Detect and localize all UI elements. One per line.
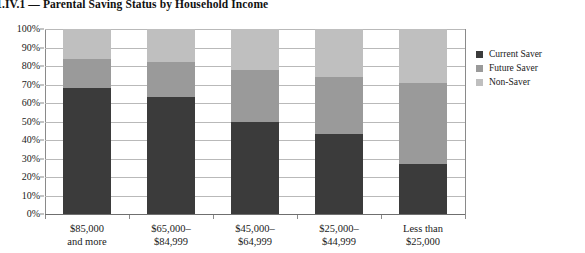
y-axis-tick-mark — [40, 47, 44, 48]
y-axis-tick-mark — [40, 140, 44, 141]
bar-stack — [63, 29, 111, 214]
y-axis-tick-label: 40% — [0, 135, 40, 145]
bar-segment-current-saver[interactable] — [399, 164, 447, 214]
y-axis-tick-mark — [40, 121, 44, 122]
plot-area — [45, 29, 465, 214]
bar-segment-future-saver[interactable] — [147, 62, 195, 97]
y-axis-tick-mark — [40, 29, 44, 30]
plot-right-edge — [465, 29, 466, 215]
x-axis-label: $25,000–$44,999 — [297, 222, 381, 248]
x-axis-label-line2: $25,000 — [381, 235, 465, 248]
y-axis-labels: 100%90%80%70%60%50%40%30%20%10%0% — [0, 29, 40, 214]
x-axis-label-line2: $64,999 — [213, 235, 297, 248]
legend-item[interactable]: Future Saver — [476, 62, 581, 74]
x-axis-label: $65,000–$84,999 — [129, 222, 213, 248]
bar-stack — [231, 29, 279, 214]
bar-group[interactable] — [315, 29, 363, 214]
bar-segment-future-saver[interactable] — [315, 77, 363, 134]
y-axis-tick-mark — [40, 158, 44, 159]
x-axis-tick-mark — [129, 215, 130, 219]
bar-stack — [315, 29, 363, 214]
y-axis-tick-label: 100% — [0, 24, 40, 34]
bar-segment-future-saver[interactable] — [231, 70, 279, 122]
y-axis-tick-mark — [40, 84, 44, 85]
bar-segment-non-saver[interactable] — [231, 29, 279, 70]
gridline-0 — [45, 214, 465, 215]
x-axis-label-line2: and more — [45, 235, 129, 248]
x-axis-label-line1: $45,000– — [213, 222, 297, 235]
x-axis-label: $45,000–$64,999 — [213, 222, 297, 248]
legend-label: Future Saver — [489, 63, 538, 73]
y-axis-tick-mark — [40, 66, 44, 67]
legend-label: Non-Saver — [489, 77, 530, 87]
y-axis-tick-mark — [40, 214, 44, 215]
x-axis-tick-mark — [465, 215, 466, 219]
x-axis-label-line1: $25,000– — [297, 222, 381, 235]
chart-title: e 1.IV.1 — Parental Saving Status by Hou… — [0, 0, 408, 10]
x-axis-label-line2: $84,999 — [129, 235, 213, 248]
chart-legend: Current SaverFuture SaverNon-Saver — [476, 48, 581, 90]
x-axis-tick-mark — [213, 215, 214, 219]
bar-segment-non-saver[interactable] — [147, 29, 195, 62]
bar-segment-future-saver[interactable] — [399, 83, 447, 164]
bar-segment-current-saver[interactable] — [315, 134, 363, 214]
x-axis-label: $85,000and more — [45, 222, 129, 248]
legend-swatch-icon — [476, 79, 483, 86]
legend-label: Current Saver — [489, 49, 542, 59]
bar-segment-future-saver[interactable] — [63, 59, 111, 89]
legend-swatch-icon — [476, 65, 483, 72]
y-axis-tick-label: 0% — [0, 209, 40, 219]
y-axis-tick-label: 70% — [0, 80, 40, 90]
x-axis-label-line1: $65,000– — [129, 222, 213, 235]
bar-group[interactable] — [147, 29, 195, 214]
x-axis-label: Less than$25,000 — [381, 222, 465, 248]
y-axis-tick-mark — [40, 103, 44, 104]
legend-item[interactable]: Non-Saver — [476, 76, 581, 88]
bar-segment-non-saver[interactable] — [63, 29, 111, 59]
x-axis-labels: $85,000and more$65,000–$84,999$45,000–$6… — [45, 222, 465, 253]
bar-group[interactable] — [231, 29, 279, 214]
bar-segment-current-saver[interactable] — [231, 122, 279, 215]
bar-group[interactable] — [63, 29, 111, 214]
x-axis-label-line2: $44,999 — [297, 235, 381, 248]
bar-segment-current-saver[interactable] — [63, 88, 111, 214]
y-axis-tick-mark — [40, 177, 44, 178]
y-axis-tick-label: 10% — [0, 191, 40, 201]
x-axis-tick-mark — [381, 215, 382, 219]
bar-stack — [147, 29, 195, 214]
x-axis-tick-mark — [45, 215, 46, 219]
legend-swatch-icon — [476, 51, 483, 58]
y-axis-tick-label: 20% — [0, 172, 40, 182]
bar-group[interactable] — [399, 29, 447, 214]
y-axis-tick-label: 50% — [0, 117, 40, 127]
legend-item[interactable]: Current Saver — [476, 48, 581, 60]
bar-stack — [399, 29, 447, 214]
y-axis-tick-mark — [40, 195, 44, 196]
x-axis-label-line1: Less than — [381, 222, 465, 235]
x-axis-tick-mark — [297, 215, 298, 219]
bar-segment-non-saver[interactable] — [399, 29, 447, 83]
bar-segment-current-saver[interactable] — [147, 97, 195, 214]
y-axis-tick-label: 90% — [0, 43, 40, 53]
x-axis-label-line1: $85,000 — [45, 222, 129, 235]
y-axis-tick-label: 60% — [0, 98, 40, 108]
y-axis-tick-label: 30% — [0, 154, 40, 164]
bar-segment-non-saver[interactable] — [315, 29, 363, 77]
y-axis-tick-label: 80% — [0, 61, 40, 71]
